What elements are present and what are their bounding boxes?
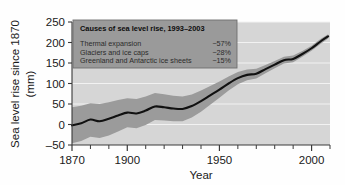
y-tick-label-200: 200 <box>46 37 65 49</box>
x-tick-label-2000: 2000 <box>299 154 325 166</box>
legend-row-value-2: ~15% <box>212 56 231 65</box>
y-axis-label-line1: Sea level rise since 1870 <box>9 20 21 148</box>
legend-title: Causes of sea level rise, 1993–2003 <box>80 24 205 33</box>
x-tick-label-1870: 1870 <box>59 154 85 166</box>
legend-box: Causes of sea level rise, 1993–2003 Ther… <box>73 20 237 68</box>
y-tick-label-250: 250 <box>46 16 65 28</box>
y-tick-label-100: 100 <box>46 78 65 90</box>
y-tick-label-50: 50 <box>52 98 65 110</box>
sea-level-rise-chart: ‒50050100150200250 1870190019502000 Sea … <box>0 0 345 185</box>
y-tick-label-150: 150 <box>46 57 65 69</box>
legend-row-label-2: Greenland and Antarctic ice sheets <box>80 56 192 65</box>
x-axis-label: Year <box>189 169 212 181</box>
x-tick-label-1950: 1950 <box>207 154 233 166</box>
y-tick-label-0: 0 <box>59 119 65 131</box>
chart-svg: ‒50050100150200250 1870190019502000 Sea … <box>0 0 345 185</box>
y-axis-label-line2: (mm) <box>24 70 36 97</box>
x-tick-label-1900: 1900 <box>114 154 140 166</box>
y-tick-label--50: ‒50 <box>46 139 65 151</box>
